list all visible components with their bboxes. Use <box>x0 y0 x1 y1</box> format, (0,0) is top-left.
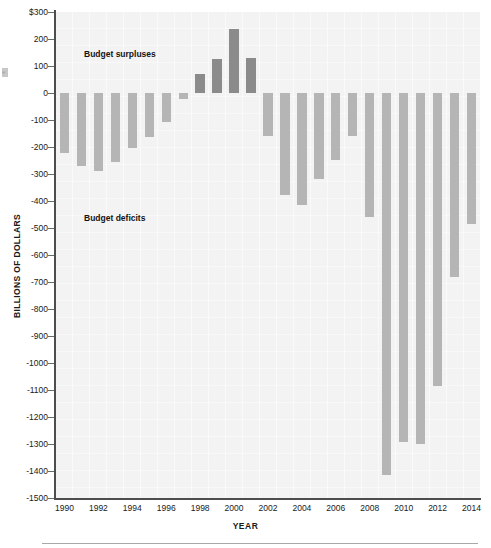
y-tick-label-wrap: -300 <box>0 169 48 179</box>
y-tick-mark <box>48 309 54 310</box>
y-tick-label: -100 <box>4 115 48 125</box>
y-tick-label-wrap: 200 <box>0 34 48 44</box>
y-tick-mark <box>48 390 54 391</box>
y-tick-mark <box>48 444 54 445</box>
x-tick-label: 2014 <box>452 503 491 513</box>
y-tick-label: 200 <box>4 34 48 44</box>
annotation-budget-deficits: Budget deficits <box>84 213 145 223</box>
y-tick-mark <box>48 363 54 364</box>
y-tick-label: 100 <box>4 61 48 71</box>
y-tick-label-wrap: -1500 <box>0 493 48 503</box>
y-tick-label: -1000 <box>4 358 48 368</box>
y-tick-label: -700 <box>4 277 48 287</box>
bar-1994 <box>128 93 137 148</box>
y-tick-label: 0 <box>4 88 48 98</box>
y-tick-mark <box>48 174 54 175</box>
y-tick-mark <box>48 147 54 148</box>
bar-2011 <box>416 93 425 444</box>
y-tick-mark <box>48 228 54 229</box>
y-tick-label-wrap: 0 <box>0 88 48 98</box>
bar-2012 <box>433 93 442 386</box>
y-tick-label-wrap: -900 <box>0 331 48 341</box>
y-tick-mark <box>48 282 54 283</box>
y-tick-label-wrap: -400 <box>0 196 48 206</box>
y-tick-label-wrap: $300 <box>0 7 48 17</box>
y-tick-mark <box>48 471 54 472</box>
y-tick-label: -400 <box>4 196 48 206</box>
y-tick-label-wrap: -1100 <box>0 385 48 395</box>
y-tick-mark <box>48 417 54 418</box>
figure-bottom-rule <box>42 543 478 544</box>
y-tick-mark <box>48 498 54 499</box>
y-tick-label: -900 <box>4 331 48 341</box>
x-axis-title: YEAR <box>0 521 491 531</box>
y-tick-mark <box>48 336 54 337</box>
y-tick-label: -800 <box>4 304 48 314</box>
y-tick-label: -1200 <box>4 412 48 422</box>
y-tick-mark <box>48 66 54 67</box>
y-tick-label: -1300 <box>4 439 48 449</box>
bar-2013 <box>450 93 459 277</box>
bar-1991 <box>77 93 86 166</box>
bar-2004 <box>297 93 306 205</box>
bar-2001 <box>246 58 255 93</box>
y-tick-mark <box>48 39 54 40</box>
y-tick-label-wrap: -600 <box>0 250 48 260</box>
bar-1992 <box>94 93 103 171</box>
y-tick-label-wrap: 100 <box>0 61 48 71</box>
bar-2009 <box>382 93 391 475</box>
y-tick-label: -500 <box>4 223 48 233</box>
budget-deficit-surplus-chart: e BILLIONS OF DOLLARS $3002001000-100-20… <box>0 0 491 548</box>
y-tick-label-wrap: -500 <box>0 223 48 233</box>
x-axis-line <box>54 498 481 500</box>
bar-1993 <box>111 93 120 162</box>
y-tick-label: -200 <box>4 142 48 152</box>
bar-1996 <box>162 93 171 122</box>
bar-2000 <box>229 29 238 93</box>
bar-2006 <box>331 93 340 160</box>
bar-1995 <box>145 93 154 137</box>
y-tick-label-wrap: -100 <box>0 115 48 125</box>
y-tick-mark <box>48 120 54 121</box>
bar-2014 <box>467 93 476 224</box>
y-tick-label-wrap: -700 <box>0 277 48 287</box>
y-tick-label: $300 <box>4 7 48 17</box>
bar-2003 <box>280 93 289 195</box>
y-tick-label-wrap: -1200 <box>0 412 48 422</box>
y-tick-label-wrap: -1300 <box>0 439 48 449</box>
y-tick-label: -300 <box>4 169 48 179</box>
y-tick-label: -1400 <box>4 466 48 476</box>
y-axis-line <box>54 10 56 500</box>
y-axis-title: BILLIONS OF DOLLARS <box>12 196 28 336</box>
bar-1999 <box>212 59 221 93</box>
bar-2007 <box>348 93 357 136</box>
bar-1998 <box>195 74 204 93</box>
annotation-budget-surpluses: Budget surpluses <box>84 49 156 59</box>
y-tick-label-wrap: -1400 <box>0 466 48 476</box>
y-tick-mark <box>48 255 54 256</box>
y-tick-label: -1100 <box>4 385 48 395</box>
y-tick-label-wrap: -800 <box>0 304 48 314</box>
bar-1997 <box>179 93 188 99</box>
y-tick-label: -1500 <box>4 493 48 503</box>
y-tick-label-wrap: -200 <box>0 142 48 152</box>
bar-2010 <box>399 93 408 442</box>
bar-1990 <box>60 93 69 153</box>
y-tick-mark <box>48 12 54 13</box>
bar-2002 <box>263 93 272 136</box>
y-tick-label-wrap: -1000 <box>0 358 48 368</box>
y-tick-label: -600 <box>4 250 48 260</box>
bar-2008 <box>365 93 374 217</box>
y-tick-mark <box>48 93 54 94</box>
bar-2005 <box>314 93 323 179</box>
y-tick-mark <box>48 201 54 202</box>
